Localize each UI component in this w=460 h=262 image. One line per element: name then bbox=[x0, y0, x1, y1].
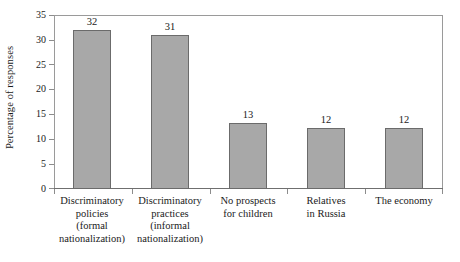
x-tick-mark-1 bbox=[132, 189, 133, 194]
bar-value-label-1: 31 bbox=[151, 21, 189, 32]
bar-no-prospects-children bbox=[229, 123, 267, 189]
bar-value-label-4: 12 bbox=[385, 114, 423, 125]
y-axis-title: Percentage of responses bbox=[0, 0, 20, 195]
x-category-label-3: Relatives in Russia bbox=[284, 195, 368, 220]
x-tick-mark-4 bbox=[365, 189, 366, 194]
x-tick-mark-2 bbox=[210, 189, 211, 194]
y-tick-label-25: 25 bbox=[24, 60, 46, 70]
x-tick-mark-0 bbox=[54, 189, 55, 194]
y-tick-label-0: 0 bbox=[24, 184, 46, 194]
y-tick-label-10: 10 bbox=[24, 134, 46, 144]
y-tick-label-15: 15 bbox=[24, 109, 46, 119]
x-category-label-2: No prospects for children bbox=[206, 195, 290, 220]
y-tick-label-35: 35 bbox=[24, 10, 46, 20]
x-tick-mark-5 bbox=[442, 189, 443, 194]
x-category-label-1: Discriminatory practices (informal natio… bbox=[128, 195, 212, 245]
y-tick-label-20: 20 bbox=[24, 84, 46, 94]
y-tick-label-5: 5 bbox=[24, 159, 46, 169]
bar-relatives-in-russia bbox=[307, 128, 345, 189]
bar-discriminatory-policies bbox=[73, 30, 111, 189]
y-tick-label-30: 30 bbox=[24, 35, 46, 45]
bar-discriminatory-practices bbox=[151, 35, 189, 189]
x-tick-mark-3 bbox=[287, 189, 288, 194]
bar-value-label-0: 32 bbox=[73, 16, 111, 27]
bar-the-economy bbox=[385, 128, 423, 189]
x-category-label-0: Discriminatory policies (formal national… bbox=[50, 195, 134, 245]
y-axis-title-text: Percentage of responses bbox=[5, 46, 16, 149]
x-category-label-4: The economy bbox=[362, 195, 446, 208]
bar-value-label-2: 13 bbox=[229, 109, 267, 120]
bar-chart: Percentage of responses 35 30 25 20 15 1… bbox=[0, 0, 460, 262]
bar-value-label-3: 12 bbox=[307, 114, 345, 125]
